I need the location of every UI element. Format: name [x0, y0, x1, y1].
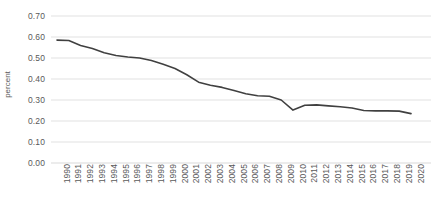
x-tick-label: 1998: [156, 164, 166, 204]
gridlines: [51, 16, 431, 163]
x-tick-label: 2002: [203, 164, 213, 204]
x-tick-label: 2003: [215, 164, 225, 204]
x-tick-label: 1995: [121, 164, 131, 204]
x-tick-label: 1999: [168, 164, 178, 204]
x-tick-label: 2005: [239, 164, 249, 204]
x-tick-label: 1992: [85, 164, 95, 204]
y-tick-label: 0.30: [28, 95, 45, 105]
x-tick-label: 2004: [227, 164, 237, 204]
y-tick-label: 0.00: [28, 158, 45, 168]
y-tick-label: 0.10: [28, 137, 45, 147]
x-tick-label: 1994: [109, 164, 119, 204]
x-tick-label: 2013: [333, 164, 343, 204]
line-chart-svg: [51, 0, 431, 168]
x-tick-label: 1991: [73, 164, 83, 204]
x-tick-label: 2019: [404, 164, 414, 204]
y-tick-label: 0.60: [28, 32, 45, 42]
x-tick-label: 2016: [368, 164, 378, 204]
x-tick-label: 2011: [309, 164, 319, 204]
chart-page: percent 0.000.100.200.300.400.500.600.70…: [0, 0, 441, 208]
x-axis-tick-labels: 1990199119921993199419951996199719981999…: [51, 164, 431, 208]
x-tick-label: 1990: [62, 164, 72, 204]
y-tick-label: 0.70: [28, 11, 45, 21]
plot-area: [51, 0, 431, 168]
y-axis-title-text: percent: [3, 71, 12, 98]
x-tick-label: 2009: [286, 164, 296, 204]
y-axis-title: percent: [0, 0, 14, 168]
x-tick-label: 2020: [416, 164, 426, 204]
x-tick-label: 1997: [144, 164, 154, 204]
x-tick-label: 2010: [298, 164, 308, 204]
x-tick-label: 1996: [132, 164, 142, 204]
x-tick-label: 2017: [380, 164, 390, 204]
x-tick-label: 2006: [250, 164, 260, 204]
x-tick-label: 2018: [392, 164, 402, 204]
x-tick-label: 2008: [274, 164, 284, 204]
x-tick-label: 2001: [191, 164, 201, 204]
y-tick-label: 0.50: [28, 53, 45, 63]
x-tick-label: 2015: [357, 164, 367, 204]
y-tick-label: 0.20: [28, 116, 45, 126]
y-axis-tick-labels: 0.000.100.200.300.400.500.600.70: [14, 0, 48, 168]
x-tick-label: 2007: [262, 164, 272, 204]
y-tick-label: 0.40: [28, 74, 45, 84]
x-tick-label: 1993: [97, 164, 107, 204]
x-tick-label: 2012: [321, 164, 331, 204]
x-tick-label: 2014: [345, 164, 355, 204]
x-tick-label: 2000: [180, 164, 190, 204]
data-series-line: [57, 40, 411, 114]
